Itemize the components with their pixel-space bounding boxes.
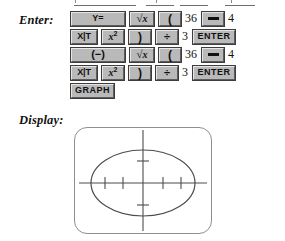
negative-key[interactable]: (−) bbox=[71, 48, 125, 62]
keystroke-sequence: Y=√x(364X|Tx2)÷3ENTER(−)√x(364X|Tx2)÷3EN… bbox=[71, 10, 285, 100]
graph-key[interactable]: GRAPH bbox=[71, 84, 114, 98]
graph-plot bbox=[75, 128, 211, 233]
artifact-tick bbox=[156, 0, 157, 3]
keystroke-row: X|Tx2)÷3ENTER bbox=[71, 64, 285, 81]
y-equals-key[interactable]: Y= bbox=[71, 12, 125, 26]
keystroke-row: X|Tx2)÷3ENTER bbox=[71, 28, 285, 45]
calculator-display bbox=[74, 127, 212, 234]
x-squared-glyph: x2 bbox=[109, 66, 118, 78]
enter-label: Enter: bbox=[19, 13, 54, 28]
left-paren-key[interactable]: ( bbox=[159, 48, 181, 62]
divide-key[interactable]: ÷ bbox=[156, 30, 178, 44]
artifact-tick bbox=[231, 0, 232, 3]
artifact-dash bbox=[225, 5, 255, 6]
artifact-tick bbox=[75, 0, 76, 3]
x-variable-key[interactable]: X|T bbox=[71, 30, 97, 44]
typed-number: 4 bbox=[228, 47, 234, 62]
square-root-key[interactable]: √x bbox=[130, 48, 154, 62]
keystroke-row: GRAPH bbox=[71, 82, 285, 99]
typed-number: 36 bbox=[185, 11, 197, 26]
artifact-dash bbox=[146, 5, 174, 6]
typed-number: 4 bbox=[228, 11, 234, 26]
square-root-key[interactable]: √x bbox=[130, 12, 154, 26]
x-squared-key[interactable]: x2 bbox=[102, 66, 124, 80]
x-variable-key[interactable]: X|T bbox=[71, 66, 97, 80]
cropped-text-artifacts bbox=[0, 0, 285, 8]
keystroke-row: Y=√x(364 bbox=[71, 10, 285, 27]
right-paren-key[interactable]: ) bbox=[129, 30, 151, 44]
typed-number: 36 bbox=[185, 47, 197, 62]
artifact-dash bbox=[74, 5, 136, 6]
minus-key[interactable] bbox=[202, 48, 224, 62]
typed-number: 3 bbox=[182, 29, 188, 44]
x-squared-glyph: x2 bbox=[109, 30, 118, 42]
enter-key[interactable]: ENTER bbox=[193, 66, 235, 80]
minus-key[interactable] bbox=[202, 12, 224, 26]
right-paren-key[interactable]: ) bbox=[129, 66, 151, 80]
radical-glyph: √x bbox=[136, 13, 147, 24]
left-paren-key[interactable]: ( bbox=[159, 12, 181, 26]
radical-glyph: √x bbox=[136, 49, 147, 60]
minus-glyph bbox=[208, 53, 219, 56]
enter-key[interactable]: ENTER bbox=[193, 30, 235, 44]
minus-glyph bbox=[208, 17, 219, 20]
display-label: Display: bbox=[19, 113, 64, 128]
x-squared-key[interactable]: x2 bbox=[102, 30, 124, 44]
calculator-screen bbox=[74, 127, 212, 234]
artifact-dash bbox=[180, 5, 208, 6]
divide-key[interactable]: ÷ bbox=[156, 66, 178, 80]
keystroke-row: (−)√x(364 bbox=[71, 46, 285, 63]
typed-number: 3 bbox=[182, 65, 188, 80]
